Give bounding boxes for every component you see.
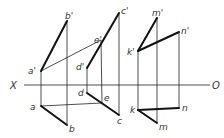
segment-a-prime-b-prime <box>41 21 67 71</box>
label-b: b <box>69 124 75 134</box>
label-e-prime: e' <box>94 35 102 45</box>
label-n-prime: n' <box>181 26 189 36</box>
label-d: d <box>78 88 84 98</box>
segment-k-n <box>138 108 179 110</box>
label-n: n <box>182 103 188 113</box>
label-m-prime: m' <box>152 8 163 18</box>
axis-label-o: O <box>212 80 220 91</box>
label-b-prime: b' <box>65 11 73 21</box>
line-a-e <box>41 103 102 106</box>
segment-d-prime-c-prime <box>87 13 119 68</box>
projector-e <box>101 40 102 103</box>
segment-k-m <box>138 110 157 123</box>
label-c: c <box>117 116 122 126</box>
label-a-prime: a' <box>28 66 36 76</box>
label-a: a <box>30 102 36 112</box>
label-e: e <box>104 93 110 103</box>
segment-d-c <box>87 93 119 115</box>
label-m: m <box>159 122 168 132</box>
axis-label-x: X <box>9 80 18 91</box>
label-k-prime: k' <box>127 47 135 57</box>
segment-a-b <box>41 106 67 125</box>
label-c-prime: c' <box>121 6 128 16</box>
label-k: k <box>130 105 136 115</box>
projection-diagram: X O a' b' c' d' e' k' m' n' a b c d e k … <box>0 0 224 138</box>
label-d-prime: d' <box>76 62 84 72</box>
